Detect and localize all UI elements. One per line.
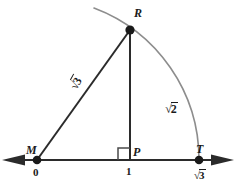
coordinate-label-sqrt3: √3 (194, 169, 206, 181)
diagram-canvas (0, 0, 239, 190)
radical-argument: 2 (171, 102, 178, 115)
geometry-figure: M 0 P 1 T √3 R √3 √2 (0, 0, 239, 190)
length-label-RP-sqrt2: √2 (165, 102, 178, 115)
right-arrowhead-icon (211, 155, 234, 166)
arc-path (94, 8, 199, 160)
point-label-M: M (26, 144, 37, 156)
point-label-T: T (196, 143, 203, 155)
coordinate-label-1: 1 (126, 166, 132, 177)
left-arrowhead-icon (2, 155, 25, 166)
point-label-R: R (134, 7, 142, 19)
segment-MR (37, 30, 130, 160)
point-label-P: P (133, 146, 140, 158)
point-dot-R (125, 25, 134, 34)
right-angle-marker (118, 148, 130, 160)
point-dot-T (195, 156, 204, 165)
radical-argument: 3 (199, 169, 206, 181)
coordinate-label-0: 0 (33, 167, 39, 178)
